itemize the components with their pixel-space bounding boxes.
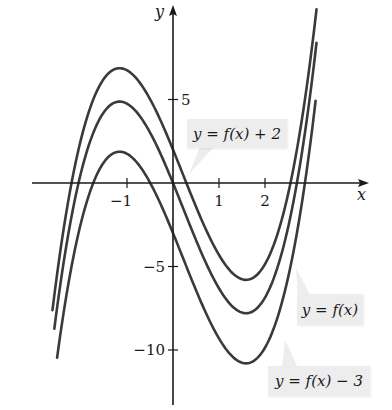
plot-area: −1125−5−10 x y <box>0 0 392 410</box>
y-tick-label: −5 <box>143 258 165 276</box>
y-axis-label: y <box>154 2 165 21</box>
chart-figure: −1125−5−10 x y y = f(x) + 2 y = f(x) y =… <box>0 0 392 410</box>
callout-tail-top <box>189 147 214 174</box>
x-axis-label: x <box>357 185 366 204</box>
curve-series-1 <box>54 43 316 329</box>
x-tick-label: −1 <box>110 192 132 210</box>
y-tick-label: −10 <box>133 341 165 359</box>
x-tick-label: 2 <box>260 192 270 210</box>
callout-label-f-minus-3: y = f(x) − 3 <box>268 366 370 396</box>
axes <box>32 5 369 405</box>
callout-tail-bottom <box>282 340 298 368</box>
curve-group <box>52 9 316 363</box>
x-tick-label: 1 <box>214 192 224 210</box>
callout-label-f-plus-2: y = f(x) + 2 <box>187 119 287 148</box>
y-tick-label: 5 <box>181 91 191 109</box>
callout-label-f: y = f(x) <box>297 294 363 325</box>
